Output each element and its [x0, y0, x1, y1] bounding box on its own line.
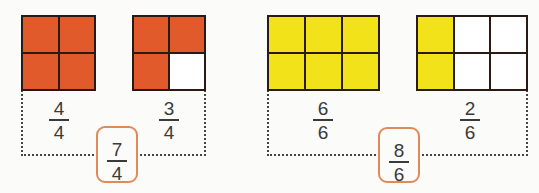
denominator: 4 — [112, 164, 123, 183]
denominator: 6 — [465, 123, 476, 142]
fraction-label-6-6: 66 — [313, 99, 333, 142]
shaded-cell — [22, 16, 59, 53]
fraction-model-3-4 — [132, 15, 206, 91]
fraction-bar — [107, 160, 127, 162]
shaded-cell — [59, 53, 96, 90]
sum-fraction: 86 — [389, 141, 409, 184]
shaded-cell — [305, 16, 342, 53]
numerator: 2 — [465, 99, 476, 118]
empty-cell — [454, 53, 491, 90]
fraction-bar — [159, 119, 179, 121]
sum-box-7-4: 74 — [96, 126, 138, 183]
shaded-cell — [22, 53, 59, 90]
fraction-model-4-4 — [21, 15, 96, 91]
fraction-bar — [49, 119, 69, 121]
denominator: 6 — [394, 165, 405, 184]
fraction-model-6-6 — [267, 15, 380, 91]
fraction-bar — [460, 119, 480, 121]
denominator: 4 — [54, 123, 65, 142]
numerator: 3 — [164, 99, 175, 118]
shaded-cell — [59, 16, 96, 53]
shaded-cell — [268, 53, 305, 90]
numerator: 6 — [318, 99, 329, 118]
numerator: 4 — [54, 99, 65, 118]
shaded-cell — [305, 53, 342, 90]
shaded-cell — [133, 53, 169, 90]
fraction-label-2-6: 26 — [460, 99, 480, 142]
fraction-bar — [389, 161, 409, 163]
shaded-cell — [342, 53, 379, 90]
empty-cell — [169, 53, 205, 90]
shaded-cell — [417, 53, 454, 90]
numerator: 7 — [112, 140, 123, 159]
denominator: 6 — [318, 123, 329, 142]
shaded-cell — [342, 16, 379, 53]
fraction-bar — [313, 119, 333, 121]
fraction-model-2-6 — [416, 15, 528, 91]
shaded-cell — [133, 16, 169, 53]
sum-box-8-6: 86 — [378, 127, 420, 183]
sum-fraction: 74 — [107, 140, 127, 183]
shaded-cell — [169, 16, 205, 53]
empty-cell — [454, 16, 491, 53]
empty-cell — [490, 53, 527, 90]
fraction-label-4-4: 44 — [49, 99, 69, 142]
shaded-cell — [268, 16, 305, 53]
denominator: 4 — [164, 123, 175, 142]
fraction-label-3-4: 34 — [159, 99, 179, 142]
shaded-cell — [417, 16, 454, 53]
empty-cell — [490, 16, 527, 53]
numerator: 8 — [394, 141, 405, 160]
